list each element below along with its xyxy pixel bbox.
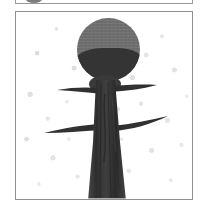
- artwork-canvas: [16, 12, 192, 199]
- lower-right-branch: [112, 116, 168, 131]
- artwork-frame[interactable]: [15, 11, 193, 200]
- upper-left-branch: [57, 87, 102, 94]
- upper-right-branch: [110, 85, 157, 92]
- tree: [16, 12, 193, 200]
- cropped-image-blob-icon: [26, 0, 42, 3]
- cropped-image-above: [15, 0, 193, 4]
- lower-left-branch: [44, 124, 100, 133]
- tree-trunk: [88, 80, 126, 200]
